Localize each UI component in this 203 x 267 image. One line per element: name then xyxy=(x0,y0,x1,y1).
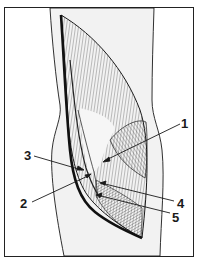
label-2: 2 xyxy=(20,197,27,210)
label-3: 3 xyxy=(24,149,31,162)
label-5: 5 xyxy=(172,211,179,224)
label-4: 4 xyxy=(177,197,184,210)
anatomical-figure: 1 2 3 4 5 xyxy=(0,0,203,267)
illustration-svg xyxy=(0,0,203,267)
label-1: 1 xyxy=(181,117,188,130)
